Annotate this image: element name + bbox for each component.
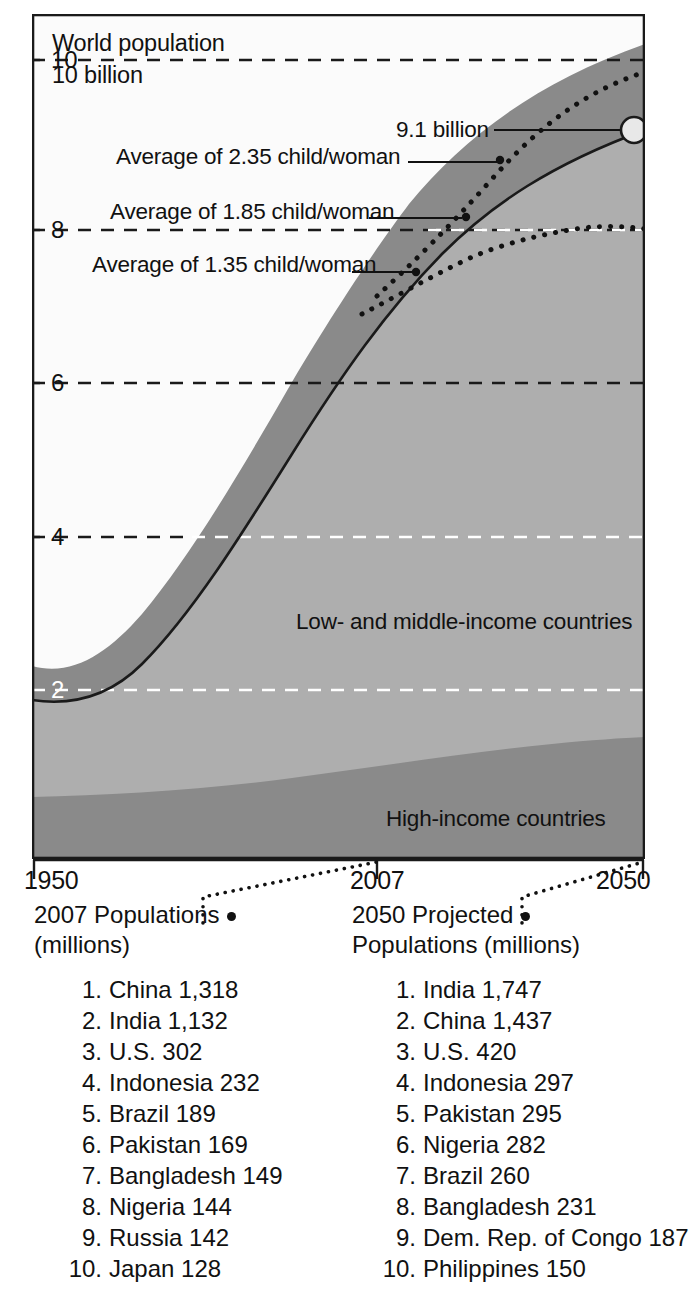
list-item: 6.Pakistan 169 — [58, 1129, 334, 1160]
annotation-average-1-35: Average of 1.35 child/woman — [92, 252, 376, 278]
panel-2007-bullet-icon — [227, 912, 236, 921]
rank-label: U.S. 420 — [423, 1036, 516, 1067]
rank-label: Philippines 150 — [423, 1253, 586, 1284]
list-item: 9.Russia 142 — [58, 1222, 334, 1253]
panel-2007-populations: 2007 Populations (millions) 1.China 1,31… — [34, 900, 334, 1284]
list-item: 7.Bangladesh 149 — [58, 1160, 334, 1191]
rank-number: 1. — [58, 974, 109, 1005]
rank-number: 9. — [372, 1222, 423, 1253]
list-item: 2.China 1,437 — [372, 1005, 672, 1036]
panel-2050-title-line1: 2050 Projected — [352, 901, 513, 928]
list-item: 7.Brazil 260 — [372, 1160, 672, 1191]
y-axis-tick-4: 4 — [51, 523, 64, 551]
list-2050-populations: 1.India 1,747 2.China 1,437 3.U.S. 420 4… — [372, 974, 672, 1284]
list-item: 5.Brazil 189 — [58, 1098, 334, 1129]
leader-dot-avg-135 — [412, 268, 420, 276]
rank-label: Brazil 260 — [423, 1160, 530, 1191]
rank-label: Nigeria 144 — [109, 1191, 232, 1222]
list-item: 8.Nigeria 144 — [58, 1191, 334, 1222]
rank-label: India 1,132 — [109, 1005, 228, 1036]
rank-label: Nigeria 282 — [423, 1129, 546, 1160]
annotation-low-middle-income-countries: Low- and middle-income countries — [296, 609, 632, 635]
annotation-average-1-85: Average of 1.85 child/woman — [110, 199, 394, 225]
rank-number: 3. — [58, 1036, 109, 1067]
list-item: 4.Indonesia 232 — [58, 1067, 334, 1098]
rank-number: 3. — [372, 1036, 423, 1067]
rank-label: Indonesia 297 — [423, 1067, 574, 1098]
rank-number: 6. — [372, 1129, 423, 1160]
list-item: 2.India 1,132 — [58, 1005, 334, 1036]
rank-number: 1. — [372, 974, 423, 1005]
rank-label: Bangladesh 149 — [109, 1160, 282, 1191]
rank-number: 6. — [58, 1129, 109, 1160]
panel-2050-projected-populations: 2050 Projected Populations (millions) 1.… — [352, 900, 672, 1284]
rank-number: 7. — [372, 1160, 423, 1191]
rank-number: 9. — [58, 1222, 109, 1253]
panel-2007-subtitle: (millions) — [34, 930, 334, 960]
rank-label: China 1,437 — [423, 1005, 552, 1036]
rank-label: Bangladesh 231 — [423, 1191, 596, 1222]
y-axis-tick-8: 8 — [51, 216, 64, 244]
rank-number: 5. — [58, 1098, 109, 1129]
rank-number: 10. — [372, 1253, 423, 1284]
panel-2050-subtitle: Populations (millions) — [352, 930, 672, 960]
rank-label: Pakistan 295 — [423, 1098, 562, 1129]
x-axis-tick-2007: 2007 — [350, 866, 404, 895]
rank-number: 8. — [58, 1191, 109, 1222]
chart-canvas — [32, 14, 645, 859]
rank-number: 4. — [58, 1067, 109, 1098]
panel-2050-bullet-icon — [521, 912, 530, 921]
panel-2050-title: 2050 Projected — [352, 900, 672, 930]
rank-label: Dem. Rep. of Congo 187 — [423, 1222, 689, 1253]
panel-2007-title-line1: 2007 Populations — [34, 901, 219, 928]
y-axis-tick-6: 6 — [51, 369, 64, 397]
list-2007-populations: 1.China 1,318 2.India 1,132 3.U.S. 302 4… — [58, 974, 334, 1284]
rank-label: Japan 128 — [109, 1253, 221, 1284]
annotation-ten-billion: 10 billion — [52, 62, 143, 89]
list-item: 5.Pakistan 295 — [372, 1098, 672, 1129]
list-item: 8.Bangladesh 231 — [372, 1191, 672, 1222]
rank-number: 7. — [58, 1160, 109, 1191]
leader-dot-avg-185 — [462, 213, 470, 221]
rank-label: U.S. 302 — [109, 1036, 202, 1067]
marker-9-1-billion — [621, 117, 645, 143]
rank-number: 10. — [58, 1253, 109, 1284]
list-item: 1.India 1,747 — [372, 974, 672, 1005]
list-item: 9.Dem. Rep. of Congo 187 — [372, 1222, 672, 1253]
rank-label: Brazil 189 — [109, 1098, 216, 1129]
rank-label: India 1,747 — [423, 974, 542, 1005]
rank-number: 5. — [372, 1098, 423, 1129]
rank-number: 4. — [372, 1067, 423, 1098]
rank-number: 2. — [372, 1005, 423, 1036]
x-axis-tick-2050: 2050 — [596, 866, 650, 895]
annotation-high-income-countries: High-income countries — [386, 806, 606, 832]
rank-number: 2. — [58, 1005, 109, 1036]
list-item: 3.U.S. 420 — [372, 1036, 672, 1067]
list-item: 4.Indonesia 297 — [372, 1067, 672, 1098]
leader-dot-avg-235 — [496, 156, 504, 164]
rank-label: Indonesia 232 — [109, 1067, 260, 1098]
list-item: 10.Philippines 150 — [372, 1253, 672, 1284]
list-item: 10.Japan 128 — [58, 1253, 334, 1284]
rank-label: Russia 142 — [109, 1222, 229, 1253]
list-item: 6.Nigeria 282 — [372, 1129, 672, 1160]
population-area-chart — [32, 14, 645, 859]
y-axis-tick-2: 2 — [51, 676, 64, 704]
list-item: 1.China 1,318 — [58, 974, 334, 1005]
rank-label: China 1,318 — [109, 974, 238, 1005]
list-item: 3.U.S. 302 — [58, 1036, 334, 1067]
rank-number: 8. — [372, 1191, 423, 1222]
panel-2007-title: 2007 Populations — [34, 900, 334, 930]
annotation-world-population: World population — [52, 30, 225, 57]
rank-label: Pakistan 169 — [109, 1129, 248, 1160]
x-axis-tick-1950: 1950 — [24, 866, 78, 895]
annotation-nine-one-billion: 9.1 billion — [396, 117, 489, 143]
annotation-average-2-35: Average of 2.35 child/woman — [116, 144, 400, 170]
